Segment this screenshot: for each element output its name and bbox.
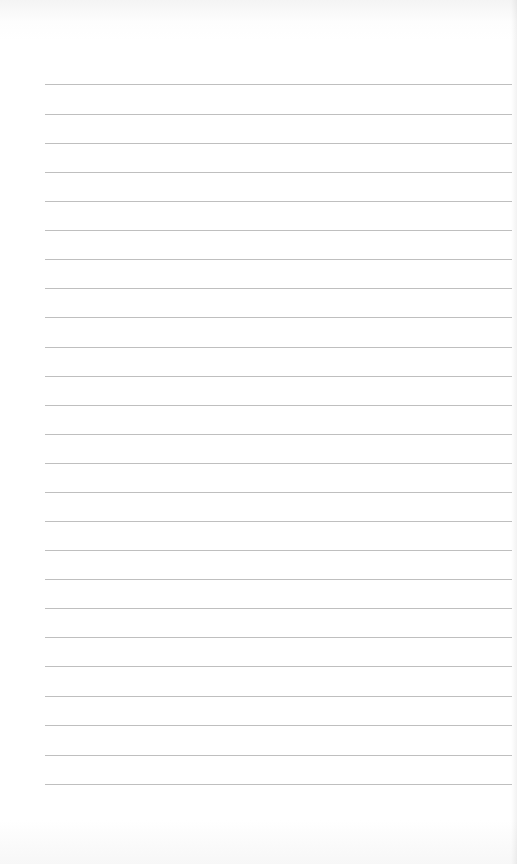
ruled-line [45, 288, 512, 289]
ruled-line [45, 201, 512, 202]
ruled-line [45, 259, 512, 260]
ruled-line [45, 666, 512, 667]
ruled-line [45, 84, 512, 85]
ruled-line [45, 143, 512, 144]
ruled-line [45, 696, 512, 697]
ruled-line [45, 725, 512, 726]
ruled-line [45, 463, 512, 464]
ruled-line [45, 172, 512, 173]
ruled-line [45, 317, 512, 318]
ruled-line [45, 608, 512, 609]
ruled-line [45, 492, 512, 493]
ruled-lines [0, 0, 517, 864]
ruled-line [45, 579, 512, 580]
lined-paper-page [0, 0, 517, 864]
ruled-line [45, 550, 512, 551]
ruled-line [45, 230, 512, 231]
ruled-line [45, 521, 512, 522]
ruled-line [45, 434, 512, 435]
ruled-line [45, 405, 512, 406]
ruled-line [45, 347, 512, 348]
ruled-line [45, 114, 512, 115]
ruled-line [45, 784, 512, 785]
ruled-line [45, 637, 512, 638]
ruled-line [45, 376, 512, 377]
page-edge-shadow [511, 0, 517, 864]
ruled-line [45, 755, 512, 756]
